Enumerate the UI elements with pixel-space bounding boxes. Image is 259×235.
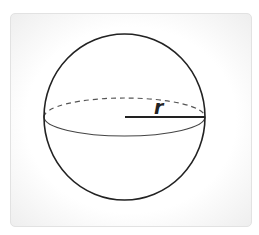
equator-back-dashed	[44, 98, 205, 117]
equator-front	[44, 117, 205, 136]
radius-label: r	[154, 96, 165, 118]
sphere-diagram: r	[0, 0, 259, 235]
